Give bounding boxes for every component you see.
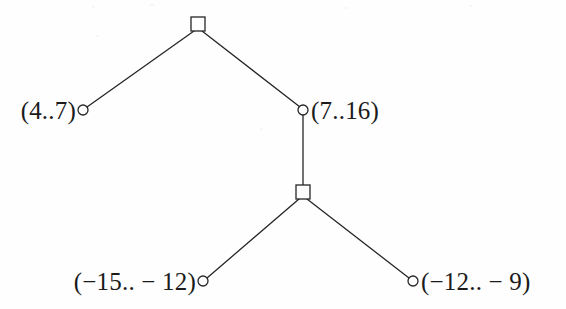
node-label-7-16: (7..16): [311, 98, 379, 123]
edge-inner-square-to-right-leaf: [307, 199, 409, 278]
node-leaf-4-7-circle: [78, 105, 88, 115]
node-inner-square: [296, 185, 310, 199]
node-label-4-7: (4..7): [21, 98, 76, 123]
interval-tree-figure: (4..7) (7..16) (−15.. − 12) (−12.. − 9): [0, 0, 566, 309]
node-label-neg12-neg9: (−12.. − 9): [421, 269, 531, 294]
node-leaf-neg15-neg12-circle: [198, 276, 208, 286]
tree-graph: [0, 0, 566, 309]
node-7-16-circle: [298, 105, 308, 115]
edge-inner-square-to-left-leaf: [207, 199, 299, 278]
node-leaf-neg12-neg9-circle: [408, 276, 418, 286]
node-label-neg15-neg12: (−15.. − 12): [74, 269, 196, 294]
edge-root-to-right-node: [202, 31, 300, 107]
node-root-square: [191, 17, 205, 31]
edge-root-to-left-leaf: [87, 31, 194, 107]
tree-edges: [87, 31, 409, 278]
